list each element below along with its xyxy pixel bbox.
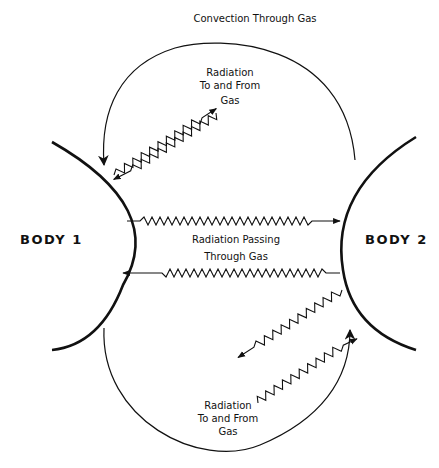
upper-radiation-label-line2: To and From bbox=[199, 80, 260, 91]
radiation-arrow-gas-to-body1 bbox=[113, 111, 220, 184]
lower-radiation-label-line1: Radiation bbox=[204, 400, 251, 411]
heat-transfer-diagram: Convection Through Gas BODY 1 BODY 2 Rad… bbox=[0, 0, 439, 468]
radiation-arrow-body1-gas-emit bbox=[112, 105, 219, 178]
middle-label-line1: Radiation Passing bbox=[192, 234, 280, 245]
body2-label: BODY 2 bbox=[365, 232, 428, 247]
lower-radiation-label-line3: Gas bbox=[218, 426, 237, 437]
radiation-arrow-body2-gas-emit bbox=[236, 287, 344, 361]
title-convection: Convection Through Gas bbox=[193, 13, 316, 24]
radiation-arrow-body2-to-body1 bbox=[123, 269, 340, 277]
radiation-arrow-body1-to-body2 bbox=[127, 217, 340, 225]
upper-radiation-label-line3: Gas bbox=[220, 95, 239, 106]
body1-label: BODY 1 bbox=[20, 232, 83, 247]
lower-radiation-label-line2: To and From bbox=[197, 413, 258, 424]
upper-radiation-label-line1: Radiation bbox=[206, 67, 253, 78]
middle-label-line2: Through Gas bbox=[203, 251, 268, 262]
